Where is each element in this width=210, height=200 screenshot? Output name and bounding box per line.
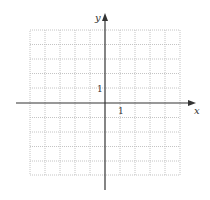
y-axis-label: y [94,12,101,23]
y-axis [102,13,108,190]
y-tick-label: 1 [97,84,103,94]
y-axis-arrow-icon [102,13,108,21]
x-tick-label: 1 [118,106,124,116]
x-axis [16,100,196,106]
x-axis-label: x [194,105,200,116]
coordinate-plane: x y 1 1 [0,0,210,200]
